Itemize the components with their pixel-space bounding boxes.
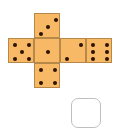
answer-box[interactable] xyxy=(71,98,101,128)
pip xyxy=(79,43,83,47)
pip xyxy=(53,68,57,72)
die-face-left xyxy=(8,38,34,63)
pip xyxy=(91,43,95,47)
pip xyxy=(39,81,43,85)
pip xyxy=(39,68,43,72)
pip xyxy=(13,57,17,61)
pip xyxy=(27,57,31,61)
pip xyxy=(105,43,109,47)
pip xyxy=(46,25,50,29)
pip xyxy=(105,50,109,54)
die-face-center xyxy=(34,38,60,63)
pip xyxy=(39,32,43,36)
pip xyxy=(20,50,24,54)
pip xyxy=(91,50,95,54)
die-face-top xyxy=(34,13,60,38)
pip xyxy=(53,81,57,85)
die-face-right xyxy=(60,38,86,63)
pip xyxy=(13,43,17,47)
pip xyxy=(46,50,50,54)
pip xyxy=(91,57,95,61)
pip xyxy=(105,57,109,61)
die-face-bottom xyxy=(34,63,60,88)
pip xyxy=(27,43,31,47)
pip xyxy=(54,18,58,22)
die-face-far-right xyxy=(86,38,112,63)
pip xyxy=(65,57,69,61)
